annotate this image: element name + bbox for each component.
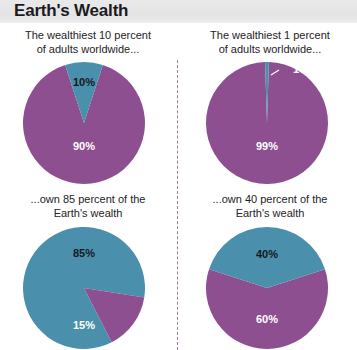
pie-chart-top-right: 1% 99%: [205, 61, 329, 185]
pie-svg-bottom-right: 40% 60%: [205, 226, 329, 350]
pie-label-85: 85%: [73, 247, 95, 259]
vertical-divider: [177, 60, 178, 350]
caption-bottom-left: ...own 85 percent of the Earth's wealth: [8, 192, 168, 220]
caption-top-left: The wealthiest 10 percent of adults worl…: [8, 28, 168, 56]
pie-label-60: 60%: [256, 313, 278, 325]
pie-svg-bottom-left: 85% 15%: [22, 226, 146, 350]
pie-slices-top-right: [206, 62, 328, 184]
page-title: Earth's Wealth: [14, 1, 128, 21]
pie-slices-bottom-right: [206, 227, 328, 349]
caption-bottom-right: ...own 40 percent of the Earth's wealth: [190, 192, 350, 220]
pie-label-99: 99%: [256, 140, 278, 152]
pie-chart-bottom-right: 40% 60%: [205, 226, 329, 350]
caption-top-right: The wealthiest 1 percent of adults world…: [190, 28, 350, 56]
pie-chart-top-left: 10% 90%: [22, 61, 146, 185]
pie-label-90: 90%: [73, 140, 95, 152]
pie-label-1: 1%: [293, 63, 309, 75]
pie-svg-top-left: 10% 90%: [22, 61, 146, 185]
earths-wealth-infographic: Earth's Wealth The wealthiest 10 percent…: [0, 0, 357, 350]
pie-chart-bottom-left: 85% 15%: [22, 226, 146, 350]
pie-label-10: 10%: [73, 76, 95, 88]
pie-label-15: 15%: [73, 319, 95, 331]
pie-svg-top-right: 1% 99%: [205, 61, 329, 185]
pie-label-40: 40%: [256, 248, 278, 260]
